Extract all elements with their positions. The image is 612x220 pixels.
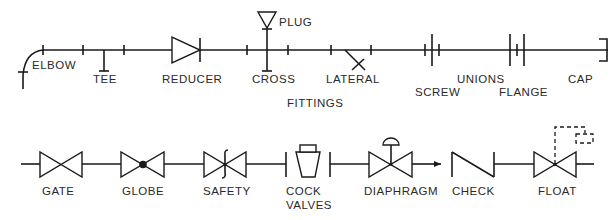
label-diaphragm: DIAPHRAGM xyxy=(364,185,438,197)
label-tee: TEE xyxy=(93,73,117,85)
label-unions: UNIONS xyxy=(457,73,505,85)
label-safety: SAFETY xyxy=(203,185,251,197)
section-title-fittings: FITTINGS xyxy=(287,97,343,109)
check-valve-symbol xyxy=(452,152,494,177)
gate-valve-symbol xyxy=(40,152,82,177)
plug-symbol xyxy=(258,12,276,28)
label-float: FLOAT xyxy=(538,185,577,197)
label-cross: CROSS xyxy=(252,73,295,85)
label-cap: CAP xyxy=(568,73,593,85)
reducer-symbol xyxy=(172,37,200,63)
safety-valve-symbol xyxy=(204,150,246,178)
lateral-symbol xyxy=(331,45,371,70)
cock-valve-symbol xyxy=(286,145,330,177)
label-flange: FLANGE xyxy=(499,86,548,98)
valves-row: GATE GLOBE SAFETY COCK VALVES DIAPHRAGM … xyxy=(21,127,594,211)
label-gate: GATE xyxy=(42,185,74,197)
fittings-row: ELBOW TEE REDUCER CROSS PLUG LATERAL UNI… xyxy=(18,12,608,109)
diaphragm-valve-symbol xyxy=(369,138,441,177)
section-title-valves: VALVES xyxy=(286,199,332,211)
tee-symbol xyxy=(83,45,124,71)
float-valve-symbol xyxy=(534,127,593,177)
label-cock: COCK xyxy=(286,185,321,197)
label-check: CHECK xyxy=(452,185,495,197)
globe-valve-symbol xyxy=(121,152,164,177)
label-reducer: REDUCER xyxy=(162,73,222,85)
label-globe: GLOBE xyxy=(122,185,164,197)
label-lateral: LATERAL xyxy=(326,73,380,85)
label-plug: PLUG xyxy=(279,16,312,28)
label-screw: SCREW xyxy=(415,86,460,98)
piping-symbols-diagram: ELBOW TEE REDUCER CROSS PLUG LATERAL UNI… xyxy=(0,0,612,220)
label-elbow: ELBOW xyxy=(32,59,76,71)
